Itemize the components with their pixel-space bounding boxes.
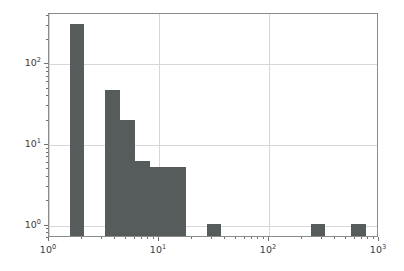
histogram-figure: 100101102103 100101102 — [0, 0, 404, 271]
y-tick-minor — [46, 168, 48, 169]
y-tick-minor — [46, 186, 48, 187]
y-tick-minor — [46, 200, 48, 201]
y-tick-label: 101 — [25, 139, 41, 149]
x-tick-major — [158, 237, 159, 241]
y-tick-minor — [46, 105, 48, 106]
y-tick-major — [44, 63, 48, 64]
x-tick-minor — [147, 237, 148, 239]
x-tick-minor — [141, 237, 142, 239]
x-tick-minor — [153, 237, 154, 239]
y-tick-minor — [46, 156, 48, 157]
y-tick-minor — [46, 71, 48, 72]
x-tick-minor — [334, 237, 335, 239]
y-tick-minor — [46, 152, 48, 153]
y-tick-label: 100 — [25, 220, 41, 230]
histogram-bar — [120, 120, 135, 236]
y-tick-minor — [46, 228, 48, 229]
y-tick-minor — [46, 162, 48, 163]
plot-area — [48, 13, 378, 237]
x-tick-major — [48, 237, 49, 241]
y-tick-minor — [46, 76, 48, 77]
x-tick-minor — [211, 237, 212, 239]
x-tick-minor — [114, 237, 115, 239]
y-tick-minor — [46, 148, 48, 149]
x-tick-minor — [191, 237, 192, 239]
x-tick-minor — [134, 237, 135, 239]
y-tick-minor — [46, 176, 48, 177]
x-tick-minor — [224, 237, 225, 239]
gridline-vertical — [49, 14, 50, 236]
y-tick-label: 102 — [25, 59, 41, 69]
histogram-bar — [311, 224, 326, 237]
y-tick-minor — [46, 25, 48, 26]
y-tick-minor — [46, 81, 48, 82]
histogram-bar — [150, 167, 186, 236]
histogram-bar — [70, 24, 85, 236]
x-tick-minor — [361, 237, 362, 239]
x-tick-minor — [354, 237, 355, 239]
histogram-bar — [351, 224, 366, 237]
y-tick-minor — [46, 39, 48, 40]
x-tick-minor — [345, 237, 346, 239]
x-tick-major — [268, 237, 269, 241]
y-tick-major — [44, 144, 48, 145]
histogram-bar — [207, 224, 221, 237]
x-tick-minor — [257, 237, 258, 239]
x-tick-minor — [263, 237, 264, 239]
y-tick-minor — [46, 232, 48, 233]
x-tick-label: 101 — [150, 245, 166, 255]
histogram-bar — [135, 161, 150, 236]
y-tick-minor — [46, 15, 48, 16]
x-tick-label: 103 — [370, 245, 386, 255]
y-tick-minor — [46, 120, 48, 121]
y-tick-minor — [46, 88, 48, 89]
histogram-bar — [105, 90, 120, 236]
y-tick-major — [44, 225, 48, 226]
x-tick-minor — [101, 237, 102, 239]
x-tick-label: 102 — [260, 245, 276, 255]
x-tick-minor — [321, 237, 322, 239]
x-tick-major — [378, 237, 379, 241]
x-tick-minor — [251, 237, 252, 239]
x-tick-minor — [81, 237, 82, 239]
y-tick-minor — [46, 95, 48, 96]
gridline-vertical — [269, 14, 270, 236]
y-tick-minor — [46, 67, 48, 68]
x-tick-minor — [367, 237, 368, 239]
gridline-horizontal — [49, 64, 377, 65]
x-tick-minor — [373, 237, 374, 239]
x-tick-label: 100 — [40, 245, 56, 255]
x-tick-minor — [235, 237, 236, 239]
x-tick-minor — [244, 237, 245, 239]
x-tick-minor — [301, 237, 302, 239]
x-tick-minor — [125, 237, 126, 239]
gridline-horizontal — [49, 145, 377, 146]
y-tick-minor — [46, 237, 48, 238]
